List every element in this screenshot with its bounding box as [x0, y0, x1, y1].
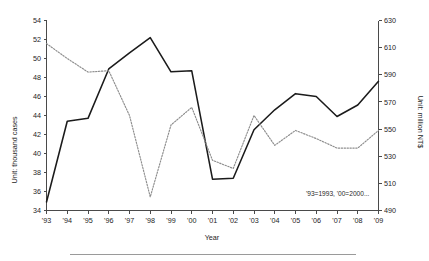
year-abbreviation-note: '93=1993, '00=2000... [306, 190, 370, 197]
left-axis-tick-label: 52 [33, 35, 41, 44]
x-axis-tick-label: '98 [146, 216, 155, 225]
right-axis-tick-label: 550 [384, 125, 396, 134]
right-axis-tick-label: 590 [384, 70, 396, 79]
left-axis-title: Unit: thousand cases [10, 116, 19, 184]
x-axis-tick-label: '01 [208, 216, 217, 225]
x-axis-tick-label: '02 [229, 216, 238, 225]
x-axis-tick-label: '05 [291, 216, 300, 225]
x-axis-tick-label: '94 [63, 216, 72, 225]
x-axis-tick-label: '99 [166, 216, 175, 225]
left-axis-tick-label: 34 [33, 206, 41, 215]
x-axis-tick-label: '00 [187, 216, 196, 225]
line-chart-figure: 3436384042444648505254 49051053055057059… [0, 0, 429, 261]
x-axis-tick-label: '96 [104, 216, 113, 225]
x-axis-tick-label: '08 [353, 216, 362, 225]
right-axis-tick-label: 630 [384, 16, 396, 25]
x-axis-tick-label: '03 [249, 216, 258, 225]
left-axis-tick-label: 54 [33, 16, 41, 25]
left-axis-tick-label: 48 [33, 73, 41, 82]
x-axis-tick-label: '06 [312, 216, 321, 225]
right-axis-title: Unit: million NT$ [416, 96, 425, 149]
left-axis-tick-label: 36 [33, 187, 41, 196]
left-axis-tick-label: 42 [33, 130, 41, 139]
x-axis-tick-label: '95 [83, 216, 92, 225]
x-axis-tick-label: '93 [42, 216, 51, 225]
right-axis-tick-label: 610 [384, 43, 396, 52]
right-axis-tick-label: 490 [384, 206, 396, 215]
x-axis-tick-label: '09 [374, 216, 383, 225]
x-axis-tick-label: '04 [270, 216, 279, 225]
left-axis-tick-label: 50 [33, 54, 41, 63]
x-axis-tick-label: '07 [332, 216, 341, 225]
left-axis-tick-label: 40 [33, 149, 41, 158]
left-axis-tick-label: 46 [33, 92, 41, 101]
right-axis-tick-label: 530 [384, 152, 396, 161]
left-axis-tick-label: 44 [33, 111, 41, 120]
left-axis-tick-label: 38 [33, 168, 41, 177]
right-axis-tick-label: 570 [384, 98, 396, 107]
x-axis-tick-label: '97 [125, 216, 134, 225]
x-axis-title: Year [205, 233, 220, 242]
right-axis-tick-label: 510 [384, 179, 396, 188]
